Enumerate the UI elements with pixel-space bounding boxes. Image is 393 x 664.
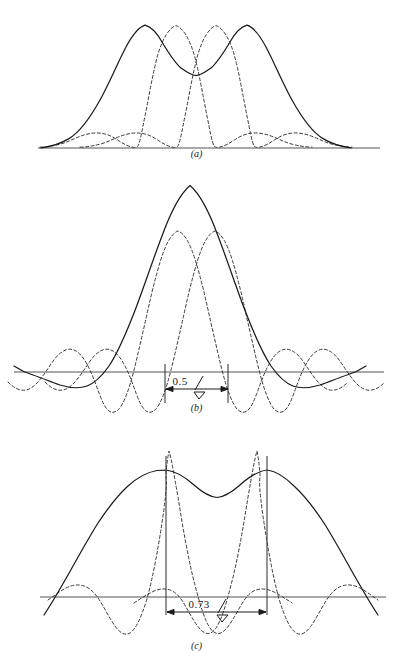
panel-b-component-2-curve xyxy=(45,231,385,412)
panel-c-dimension-arrow xyxy=(167,609,266,614)
panel-a-sum-curve xyxy=(41,25,351,148)
panel-b: 0.5 (b) xyxy=(0,170,393,425)
panel-b-delta-icon xyxy=(194,392,205,399)
panel-c-fraction-slash xyxy=(218,599,226,613)
panel-a-caption: (a) xyxy=(0,148,393,159)
figure-root: (a) 0.5 (b) xyxy=(0,0,393,664)
panel-b-fraction-slash xyxy=(195,376,203,390)
panel-b-separation-label: 0.5 xyxy=(172,375,187,387)
panel-c-component-1-curve xyxy=(48,451,292,634)
panel-c-caption: (c) xyxy=(0,640,393,651)
panel-a-plot xyxy=(0,0,393,170)
panel-c-delta-icon xyxy=(217,615,228,622)
panel-b-plot: 0.5 xyxy=(0,170,393,425)
panel-c: 0.73 (c) xyxy=(0,425,393,664)
panel-b-sum-curve xyxy=(14,186,366,388)
panel-c-component-2-curve xyxy=(134,451,378,634)
panel-c-separation-label: 0.73 xyxy=(188,598,209,610)
panel-a: (a) xyxy=(0,0,393,170)
panel-b-caption: (b) xyxy=(0,402,393,413)
panel-c-sum-curve xyxy=(44,470,378,615)
panel-c-plot: 0.73 xyxy=(0,425,393,664)
